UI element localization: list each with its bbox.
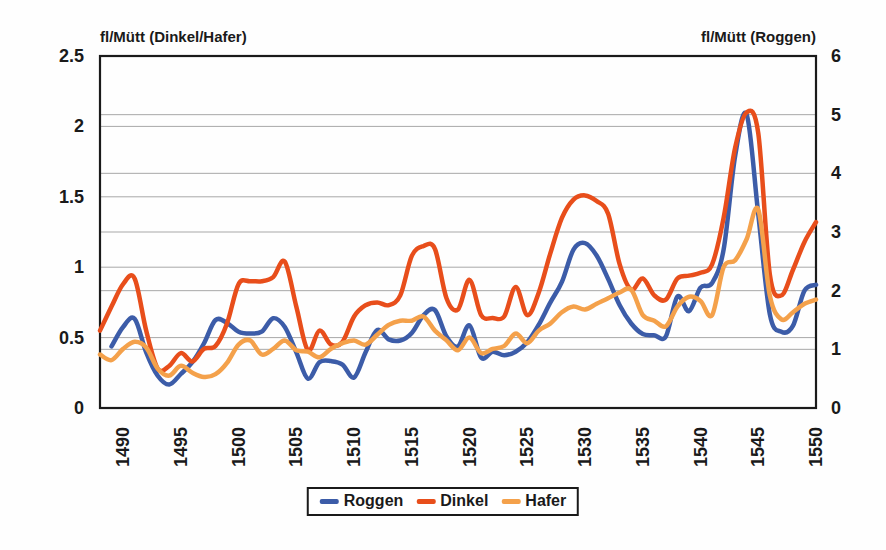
x-tick-1490: 1490 — [113, 412, 133, 482]
left-tick-0: 0 — [24, 399, 84, 417]
x-tick-1495: 1495 — [171, 412, 191, 482]
x-tick-1515: 1515 — [402, 412, 422, 482]
legend-swatch-dinkel — [416, 499, 435, 504]
x-tick-1545: 1545 — [748, 412, 768, 482]
legend-swatch-roggen — [320, 499, 339, 504]
right-tick-2: 2 — [831, 282, 841, 300]
right-tick-5: 5 — [831, 106, 841, 124]
left-tick-2: 2 — [24, 117, 84, 135]
legend: RoggenDinkelHafer — [307, 487, 579, 516]
left-tick-0.5: 0.5 — [24, 329, 84, 347]
legend-swatch-hafer — [501, 499, 520, 504]
left-tick-1: 1 — [24, 258, 84, 276]
x-tick-1540: 1540 — [691, 412, 711, 482]
x-tick-1520: 1520 — [460, 412, 480, 482]
legend-item-roggen: Roggen — [320, 492, 404, 510]
x-tick-1510: 1510 — [344, 412, 364, 482]
x-tick-1535: 1535 — [633, 412, 653, 482]
right-tick-1: 1 — [831, 340, 841, 358]
right-tick-4: 4 — [831, 164, 841, 182]
legend-label-roggen: Roggen — [344, 492, 404, 510]
left-tick-2.5: 2.5 — [24, 47, 84, 65]
x-tick-1550: 1550 — [806, 412, 826, 482]
chart-canvas: fl/Mütt (Dinkel/Hafer) fl/Mütt (Roggen) … — [0, 0, 886, 550]
x-tick-1530: 1530 — [575, 412, 595, 482]
right-tick-0: 0 — [831, 399, 841, 417]
legend-item-hafer: Hafer — [501, 492, 566, 510]
right-tick-3: 3 — [831, 223, 841, 241]
x-tick-1500: 1500 — [229, 412, 249, 482]
x-tick-1525: 1525 — [517, 412, 537, 482]
legend-label-dinkel: Dinkel — [440, 492, 488, 510]
x-tick-1505: 1505 — [286, 412, 306, 482]
left-tick-1.5: 1.5 — [24, 188, 84, 206]
series-line-hafer — [100, 208, 816, 377]
legend-item-dinkel: Dinkel — [416, 492, 488, 510]
right-tick-6: 6 — [831, 47, 841, 65]
legend-label-hafer: Hafer — [525, 492, 566, 510]
